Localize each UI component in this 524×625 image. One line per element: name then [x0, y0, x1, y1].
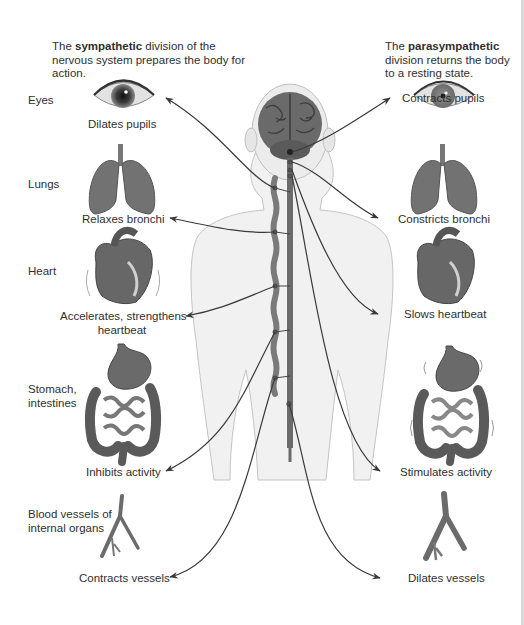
effect-constricts-bronchi: Constricts bronchi: [398, 213, 490, 227]
stomach-intestines-icon: [90, 344, 156, 462]
effect-dilates-pupils: Dilates pupils: [88, 118, 156, 132]
label-line: Blood vessels of: [28, 508, 112, 522]
effect-relaxes-bronchi: Relaxes bronchi: [82, 213, 164, 227]
human-body: [191, 84, 393, 480]
organ-label-vessels: Blood vessels of internal organs: [28, 508, 112, 535]
organ-label-eyes: Eyes: [28, 94, 54, 108]
label-line: Accelerates, strengthens: [60, 310, 184, 324]
parasympathetic-intro: The parasympathetic division returns the…: [385, 40, 515, 81]
organ-label-stomach: Stomach, intestines: [28, 383, 77, 410]
intro-bold-term: sympathetic: [75, 40, 142, 52]
stomach-intestines-icon: [411, 346, 494, 462]
lungs-icon: [411, 144, 477, 214]
label-line: intestines: [28, 397, 77, 411]
sympathetic-intro: The sympathetic division of the nervous …: [52, 40, 252, 81]
label-line: Stomach,: [28, 383, 77, 397]
organ-label-lungs: Lungs: [28, 178, 59, 192]
label-line: internal organs: [28, 522, 112, 536]
effect-accelerates-heartbeat: Accelerates, strengthens heartbeat: [60, 310, 184, 337]
heart-icon: [86, 230, 159, 303]
effect-dilates-vessels: Dilates vessels: [408, 572, 485, 586]
effect-slows-heartbeat: Slows heartbeat: [404, 308, 486, 322]
intro-prefix: The: [385, 40, 408, 52]
effect-contracts-vessels: Contracts vessels: [79, 572, 170, 586]
eye-dilated-icon: [94, 81, 154, 109]
intro-prefix: The: [52, 40, 75, 52]
effect-contracts-pupils: Contracts pupils: [402, 92, 484, 106]
effect-stimulates-activity: Stimulates activity: [400, 466, 492, 480]
effect-inhibits-activity: Inhibits activity: [86, 466, 161, 480]
lungs-icon: [89, 144, 155, 214]
label-line: heartbeat: [60, 324, 184, 338]
heart-icon: [417, 230, 474, 303]
organ-label-heart: Heart: [28, 265, 56, 279]
intro-bold-term: parasympathetic: [408, 40, 499, 52]
autonomic-nervous-system-diagram: The sympathetic division of the nervous …: [0, 0, 524, 625]
intro-rest: division returns the body to a resting s…: [385, 54, 510, 80]
blood-vessel-icon: [426, 494, 464, 560]
